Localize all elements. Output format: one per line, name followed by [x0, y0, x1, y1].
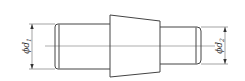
d2-label: ϕd	[214, 42, 224, 54]
arrow-down-icon	[223, 59, 226, 64]
arrow-up-icon	[223, 27, 226, 32]
dimension-d2: ϕd2	[201, 27, 228, 64]
shaft-drawing: ϕd1 ϕd2	[0, 0, 245, 81]
arrow-down-icon	[30, 64, 33, 69]
d1-label: ϕd	[21, 42, 31, 54]
svg-text:ϕd2: ϕd2	[214, 38, 225, 54]
arrow-up-icon	[30, 24, 33, 29]
d2-subscript: 2	[218, 38, 225, 43]
dimension-d1: ϕd1	[21, 24, 55, 69]
d1-subscript: 1	[25, 38, 32, 42]
right-cylinder	[160, 27, 201, 64]
left-cylinder	[55, 24, 110, 69]
svg-text:ϕd1: ϕd1	[21, 38, 32, 54]
